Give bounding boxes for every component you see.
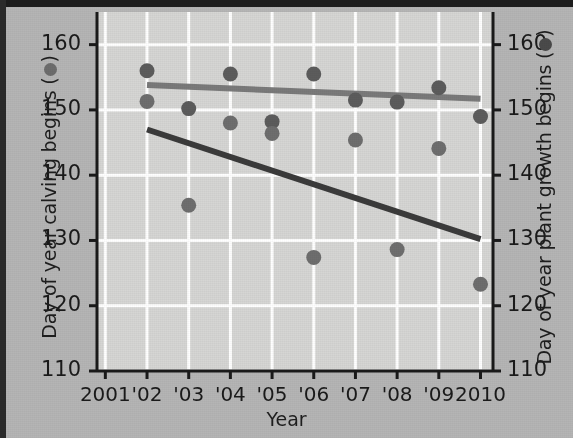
y-axis-left-label: Day of year calving begins () [38, 17, 60, 377]
y-left-label-text-suffix: ) [38, 55, 60, 62]
y-axis-right-label: Day of year plant growth begins () [533, 17, 555, 377]
y-right-label-text-suffix: ) [533, 29, 555, 36]
calving-legend-symbol [44, 63, 57, 76]
x-axis-label: Year [0, 408, 573, 430]
figure-root: 1101101201201301301401401501501601602001… [0, 0, 573, 438]
y-right-label-text-prefix: Day of year plant growth begins ( [533, 52, 555, 365]
x-tick-label-2010: 2010 [445, 382, 515, 406]
tick-label-layer: 1101101201201301301401401501501601602001… [0, 0, 573, 438]
y-left-label-text-prefix: Day of year calving begins ( [38, 77, 60, 338]
plant-growth-legend-symbol [539, 38, 552, 51]
